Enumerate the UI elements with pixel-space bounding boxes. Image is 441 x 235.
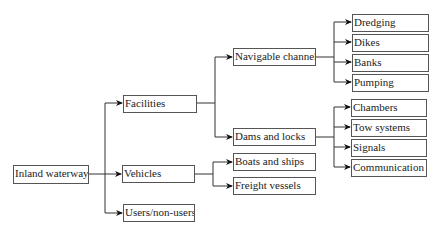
node-chambers: Chambers <box>351 99 427 117</box>
node-inland-waterways: Inland waterways <box>13 165 89 184</box>
node-dredging: Dredging <box>352 14 429 32</box>
node-dikes: Dikes <box>352 34 429 52</box>
node-banks: Banks <box>352 54 429 72</box>
node-users-non-users: Users/non-users <box>123 204 195 222</box>
node-signals: Signals <box>351 139 427 157</box>
node-tow-systems: Tow systems <box>351 119 427 137</box>
node-dams-and-locks: Dams and locks <box>233 128 316 146</box>
node-facilities: Facilities <box>123 95 197 113</box>
node-boats-and-ships: Boats and ships <box>233 153 316 171</box>
inland-waterways-tree-diagram: Inland waterways Facilities Vehicles Use… <box>0 0 441 235</box>
node-navigable-channels: Navigable channels <box>233 48 316 66</box>
node-freight-vessels: Freight vessels <box>233 177 316 195</box>
node-pumping: Pumping <box>352 74 429 92</box>
node-communication: Communication <box>351 159 427 177</box>
node-vehicles: Vehicles <box>122 165 195 183</box>
